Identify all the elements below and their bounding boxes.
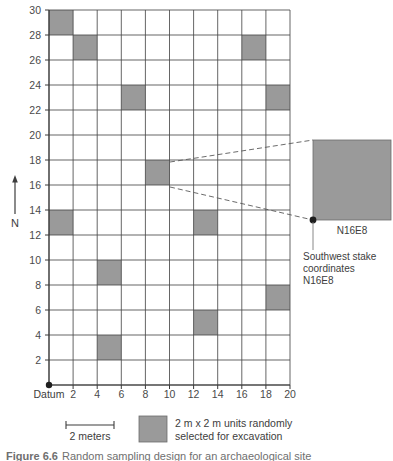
north-arrow-head	[12, 175, 18, 183]
selected-unit-N28E0	[49, 10, 73, 35]
y-tick-label-24: 24	[29, 79, 41, 91]
x-tick-label-6: 6	[118, 388, 124, 400]
y-tick-label-12: 12	[29, 229, 41, 241]
x-tick-label-4: 4	[94, 388, 100, 400]
legend-swatch	[139, 416, 167, 442]
x-tick-label-12: 12	[188, 388, 200, 400]
selected-unit-N4E12	[194, 310, 218, 335]
selected-unit-N6E18	[266, 285, 290, 310]
x-tick-label-10: 10	[164, 388, 176, 400]
callout-unit-label: N16E8	[337, 225, 368, 236]
selected-unit-N16E8	[145, 160, 169, 185]
y-tick-label-18: 18	[29, 154, 41, 166]
y-tick-label-4: 4	[35, 329, 41, 341]
selected-unit-N26E16	[242, 35, 266, 60]
figure-caption-text: Random sampling design for an archaeolog…	[62, 450, 311, 461]
callout-unit-square	[313, 140, 391, 220]
grid-lines	[49, 10, 290, 385]
stake-caption-line1: Southwest stake	[303, 251, 377, 262]
axis-tick-labels: 2468101214161820246810121416182022242628…	[29, 4, 296, 400]
figure-random-sampling-design: 2468101214161820246810121416182022242628…	[0, 0, 393, 461]
x-tick-label-18: 18	[260, 388, 272, 400]
north-arrow: N	[11, 175, 19, 229]
figure-caption: Figure 6.6 Random sampling design for an…	[6, 450, 311, 461]
y-tick-label-30: 30	[29, 4, 41, 16]
y-tick-label-6: 6	[35, 304, 41, 316]
selected-unit-N22E18	[266, 85, 290, 110]
figure-caption-label: Figure 6.6	[6, 450, 58, 461]
y-tick-label-22: 22	[29, 104, 41, 116]
selected-unit-N26E2	[73, 35, 97, 60]
legend-text-line1: 2 m x 2 m units randomly	[175, 417, 293, 429]
y-tick-label-2: 2	[35, 354, 41, 366]
selected-unit-N22E6	[121, 85, 145, 110]
y-tick-label-16: 16	[29, 179, 41, 191]
datum-label: Datum	[34, 388, 65, 400]
x-tick-label-8: 8	[142, 388, 148, 400]
x-tick-label-2: 2	[70, 388, 76, 400]
legend: 2 m x 2 m units randomly selected for ex…	[139, 416, 293, 442]
north-arrow-label: N	[11, 217, 19, 229]
x-tick-label-20: 20	[284, 388, 296, 400]
selected-unit-N8E4	[97, 260, 121, 285]
x-tick-label-14: 14	[212, 388, 224, 400]
scale-bar-label: 2 meters	[70, 430, 111, 442]
x-tick-label-16: 16	[236, 388, 248, 400]
y-tick-label-26: 26	[29, 54, 41, 66]
y-tick-label-28: 28	[29, 29, 41, 41]
y-tick-label-14: 14	[29, 204, 41, 216]
y-tick-label-8: 8	[35, 279, 41, 291]
selected-unit-N12E0	[49, 210, 73, 235]
stake-caption-line2: coordinates	[303, 263, 355, 274]
legend-text-line2: selected for excavation	[175, 430, 283, 442]
site-grid-diagram: 2468101214161820246810121416182022242628…	[0, 0, 393, 461]
scale-bar: 2 meters	[66, 421, 114, 442]
stake-caption-line3: N16E8	[303, 275, 334, 286]
axis-tick-marks	[45, 10, 290, 389]
callout-unit-box: N16E8 Southwest stake coordinates N16E8	[303, 140, 391, 286]
selected-unit-N2E4	[97, 335, 121, 360]
y-tick-label-10: 10	[29, 254, 41, 266]
axes	[46, 10, 290, 388]
selected-unit-N12E12	[194, 210, 218, 235]
y-tick-label-20: 20	[29, 129, 41, 141]
